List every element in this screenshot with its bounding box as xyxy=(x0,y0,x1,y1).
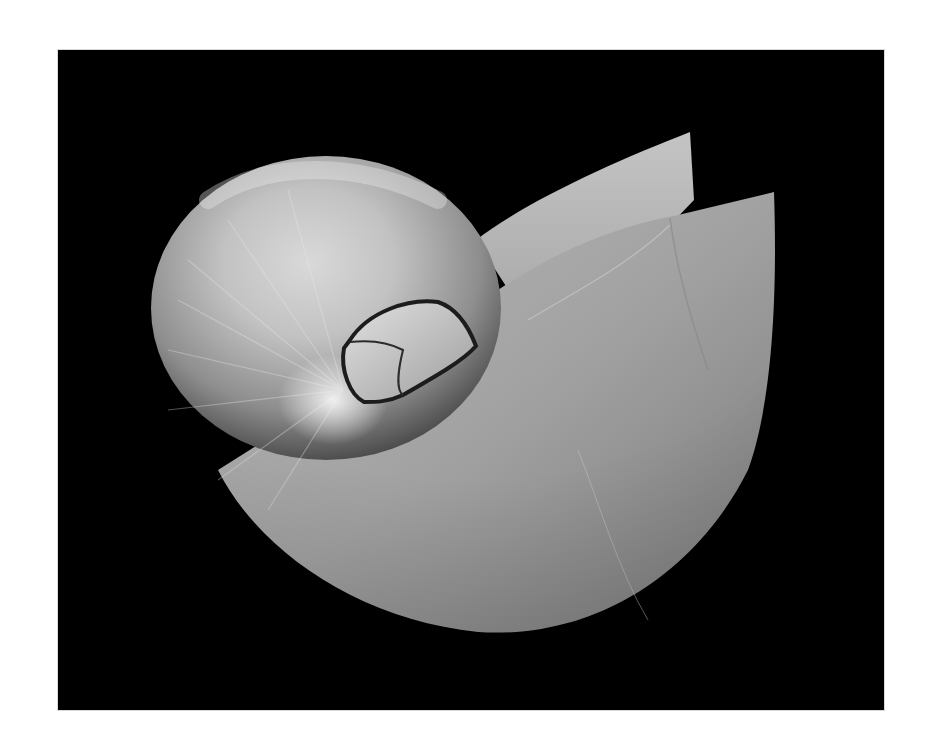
photo-frame: Nautilus shell xyxy=(58,50,884,710)
nautilus-shell-illustration xyxy=(58,50,884,710)
